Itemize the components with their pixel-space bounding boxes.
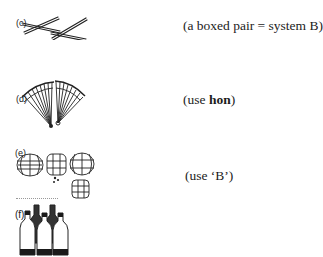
item-d: (d) xyxy=(14,78,94,130)
divider xyxy=(16,198,58,199)
item-f: (f) xyxy=(14,203,74,257)
item-note: (a boxed pair = system B) xyxy=(183,18,323,34)
item-label: (d) xyxy=(16,94,27,104)
item-note: (use hon) xyxy=(183,92,235,108)
item-note: (use ‘B’) xyxy=(185,168,233,184)
item-e: (e) xyxy=(12,150,96,202)
folding-fans-icon xyxy=(14,78,94,130)
item-label: (f) xyxy=(15,209,24,220)
item-c: (c) xyxy=(14,12,94,40)
item-label: (c) xyxy=(16,18,27,28)
item-label: (e) xyxy=(15,148,26,158)
